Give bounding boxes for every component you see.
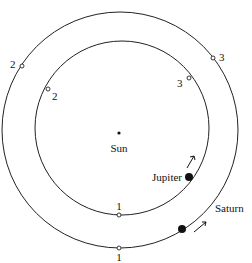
svg-text:3: 3 [219,51,225,63]
saturn-position-2: 2 [10,58,24,70]
jupiter-position-3: 3 [177,76,191,89]
sun-label: Sun [110,142,128,154]
jupiter-label: Jupiter [152,171,182,183]
jupiter-planet: Jupiter [152,171,193,183]
svg-text:2: 2 [52,90,58,102]
jupiter-direction-arrow-icon [187,156,195,168]
saturn-direction-arrow-icon [194,222,206,232]
jupiter-position-2: 2 [46,87,58,102]
saturn-label: Saturn [215,202,244,214]
svg-text:3: 3 [177,77,183,89]
jupiter-position-1: 1 [116,200,122,217]
jupiter-orbit [35,41,209,215]
svg-text:1: 1 [116,251,122,263]
svg-text:2: 2 [10,58,16,70]
saturn-position-3: 3 [211,51,225,63]
saturn-position-1: 1 [116,246,122,263]
sun-dot [117,131,120,134]
saturn-planet: Saturn [178,202,244,233]
orbit-diagram: Sun 1 2 3 1 2 3 Jupiter Saturn [0,0,252,263]
saturn-orbit [2,12,238,248]
svg-text:1: 1 [116,200,122,212]
